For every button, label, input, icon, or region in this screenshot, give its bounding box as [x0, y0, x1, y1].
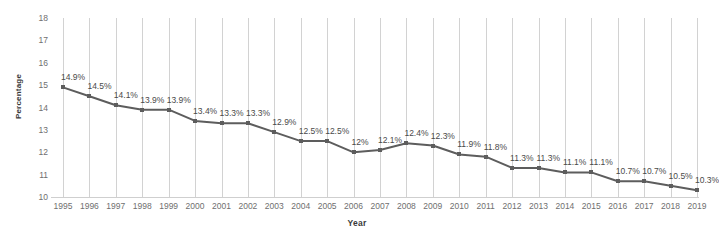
data-point-marker — [299, 139, 303, 143]
data-point-marker — [378, 148, 382, 152]
data-point-marker — [669, 184, 673, 188]
data-point-marker — [114, 103, 118, 107]
data-point-marker — [537, 166, 541, 170]
data-point-label: 12% — [352, 138, 369, 147]
data-point-label: 11.3% — [537, 154, 560, 163]
data-point-label: 12.1% — [378, 136, 402, 145]
data-point-label: 14.5% — [87, 82, 111, 91]
data-point-label: 12.3% — [431, 132, 455, 141]
data-point-label: 13.3% — [220, 109, 244, 118]
data-point-label: 13.4% — [193, 107, 217, 116]
data-point-marker — [695, 188, 699, 192]
data-point-marker — [220, 121, 224, 125]
data-point-label: 13.3% — [246, 109, 270, 118]
data-point-marker — [61, 85, 65, 89]
data-point-marker — [193, 119, 197, 123]
data-point-label: 11.9% — [457, 140, 480, 149]
data-point-marker — [325, 139, 329, 143]
data-point-marker — [589, 170, 593, 174]
data-point-label: 11.1% — [563, 158, 586, 167]
data-point-marker — [272, 130, 276, 134]
data-point-label: 10.7% — [616, 167, 640, 176]
data-point-marker — [352, 150, 356, 154]
data-point-label: 12.4% — [404, 129, 428, 138]
data-point-marker — [404, 141, 408, 145]
data-point-label: 14.1% — [114, 91, 138, 100]
data-point-label: 10.7% — [642, 167, 666, 176]
data-point-label: 12.5% — [325, 127, 349, 136]
data-point-label: 13.9% — [167, 96, 191, 105]
data-point-label: 11.1% — [589, 158, 612, 167]
data-point-marker — [87, 94, 91, 98]
data-point-label: 12.9% — [272, 118, 296, 127]
data-point-marker — [510, 166, 514, 170]
data-point-marker — [140, 108, 144, 112]
data-point-marker — [431, 144, 435, 148]
data-point-label: 10.5% — [669, 172, 693, 181]
data-point-marker — [642, 179, 646, 183]
data-point-marker — [563, 170, 567, 174]
data-point-marker — [616, 179, 620, 183]
data-point-label: 14.9% — [61, 73, 85, 82]
data-point-marker — [246, 121, 250, 125]
data-point-marker — [484, 155, 488, 159]
data-point-label: 11.3% — [510, 154, 533, 163]
data-point-label: 12.5% — [299, 127, 323, 136]
data-point-label: 11.8% — [484, 143, 507, 152]
data-point-marker — [167, 108, 171, 112]
data-point-marker — [457, 152, 461, 156]
data-point-label: 13.9% — [140, 96, 164, 105]
data-point-label: 10.3% — [695, 176, 719, 185]
